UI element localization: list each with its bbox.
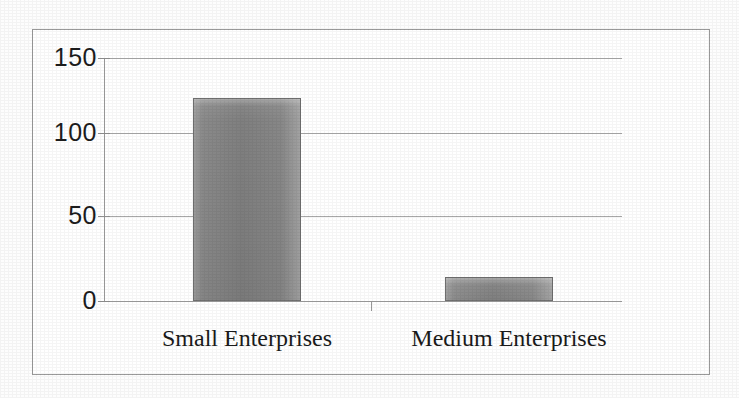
chart-plot-frame: 150 100 50 0 Small Enterprises Medium En… (32, 29, 710, 375)
x-category-label-medium: Medium Enterprises (385, 326, 633, 350)
x-axis-mid-tick (371, 301, 372, 311)
figure-page: 150 100 50 0 Small Enterprises Medium En… (0, 0, 739, 398)
y-tick-label-100: 100 (27, 120, 97, 145)
y-tick-50 (98, 216, 110, 217)
x-category-label-small: Small Enterprises (137, 326, 357, 350)
y-tick-150 (98, 58, 110, 59)
gridline-50 (104, 216, 622, 217)
y-tick-label-150: 150 (27, 45, 97, 70)
y-axis-line (104, 58, 105, 302)
bar-medium-enterprises (445, 277, 553, 301)
bar-small-enterprises (193, 98, 301, 301)
gridline-150 (104, 58, 622, 59)
gridline-100 (104, 133, 622, 134)
y-tick-label-50: 50 (27, 203, 97, 228)
y-tick-label-0: 0 (27, 288, 97, 313)
y-tick-0 (98, 301, 110, 302)
y-tick-100 (98, 133, 110, 134)
axis-baseline (104, 301, 622, 302)
